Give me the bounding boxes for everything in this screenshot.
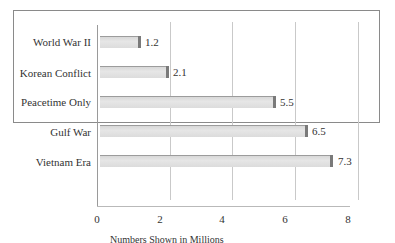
bar-cap: [273, 96, 276, 108]
bar-cap: [305, 125, 308, 137]
category-label: Gulf War: [50, 126, 91, 138]
bar-korean-conflict: [100, 66, 166, 78]
category-label: Korean Conflict: [20, 67, 91, 79]
bar-value-label: 5.5: [280, 96, 294, 108]
bar-value-label: 2.1: [173, 66, 187, 78]
gridline-6: [295, 22, 296, 200]
x-axis-title: Numbers Shown in Millions: [110, 234, 224, 243]
bar-cap: [138, 36, 141, 48]
x-tick-label: 4: [219, 213, 225, 225]
y-axis: [97, 25, 98, 206]
bar-gulf-war: [100, 125, 305, 137]
category-label: Vietnam Era: [36, 156, 91, 168]
bar-value-label: 7.3: [338, 155, 352, 167]
x-tick-label: 0: [94, 213, 100, 225]
bar-cap: [166, 66, 169, 78]
bar-peacetime-only: [100, 96, 273, 108]
bar-vietnam-era: [100, 155, 330, 167]
bar-value-label: 6.5: [312, 125, 326, 137]
x-axis: [97, 206, 350, 207]
bar-value-label: 1.2: [145, 36, 159, 48]
bar-world-war-ii: [100, 36, 138, 48]
gridline-8: [358, 22, 359, 200]
bar-cap: [330, 155, 333, 167]
x-tick-label: 2: [157, 213, 163, 225]
category-label: Peacetime Only: [21, 96, 91, 108]
gridline-4: [232, 22, 233, 200]
x-tick-label: 6: [282, 213, 288, 225]
gridline-2: [170, 22, 171, 200]
category-label: World War II: [33, 36, 91, 48]
x-tick-label: 8: [345, 213, 351, 225]
